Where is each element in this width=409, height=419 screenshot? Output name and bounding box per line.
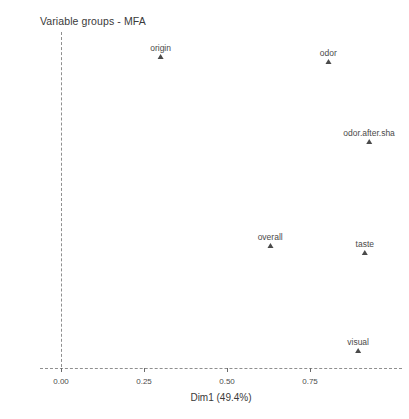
triangle-marker-icon [267, 243, 273, 248]
data-point-label: origin [150, 43, 171, 53]
reference-line-vertical [61, 32, 62, 372]
data-point-label: visual [347, 337, 369, 347]
reference-line-horizontal [40, 368, 402, 369]
triangle-marker-icon [325, 59, 331, 64]
data-point: taste [356, 239, 374, 255]
x-axis-tick [61, 368, 62, 372]
plot-panel: 0.00.20.40.6 originodorodor.after.shaove… [40, 32, 402, 372]
data-point-label: taste [356, 239, 374, 249]
chart-title: Variable groups - MFA [40, 15, 146, 27]
x-axis-tick-label: 0.00 [53, 377, 69, 386]
data-point: visual [347, 337, 369, 353]
data-point: odor [320, 48, 337, 64]
data-point: overall [258, 232, 283, 248]
x-axis-tick [227, 368, 228, 372]
triangle-marker-icon [366, 139, 372, 144]
triangle-marker-icon [355, 348, 361, 353]
data-point-label: odor [320, 48, 337, 58]
x-axis-tick [144, 368, 145, 372]
x-axis-tick-label: 0.75 [302, 377, 318, 386]
x-axis-tick-label: 0.25 [136, 377, 152, 386]
chart-root: Variable groups - MFA 0.00.20.40.6 origi… [0, 0, 409, 419]
data-point: origin [150, 43, 171, 59]
x-axis-title: Dim1 (49.4%) [40, 392, 402, 403]
data-point: odor.after.sha [343, 128, 395, 144]
triangle-marker-icon [362, 250, 368, 255]
x-axis-tick [310, 368, 311, 372]
x-axis-tick-label: 0.50 [219, 377, 235, 386]
triangle-marker-icon [158, 54, 164, 59]
data-point-label: odor.after.sha [343, 128, 395, 138]
data-point-label: overall [258, 232, 283, 242]
